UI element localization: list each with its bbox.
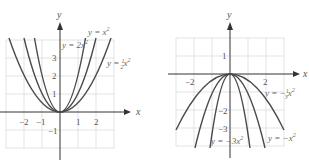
right-tick-y-neg3: −3 — [218, 124, 228, 134]
left-y-label: y — [56, 9, 62, 20]
left-tick-y-2: 2 — [52, 71, 57, 81]
left-tick-x-1: 1 — [76, 117, 81, 127]
left-tick-y-3: 3 — [52, 53, 57, 63]
right-tick-x-2: 2 — [263, 77, 268, 87]
right-tick-y-neg2: −2 — [218, 106, 228, 116]
right-x-arrow-icon — [293, 71, 300, 77]
label-y-neg-3x2: y = −3x2 — [210, 135, 243, 146]
label-y-neg-x2: y = −x2 — [267, 132, 296, 143]
left-y-arrow-icon — [57, 22, 63, 30]
left-tick-y-1: 1 — [52, 89, 57, 99]
right-y-arrow-icon — [227, 22, 233, 30]
left-tick-y-neg1: −1 — [48, 126, 58, 136]
left-graph: x y −2 −1 1 2 3 2 1 −1 y = 2x2 y = x2 y … — [0, 9, 141, 160]
left-x-arrow-icon — [124, 109, 131, 115]
label-y-half-x2: y = 12x2 — [106, 57, 131, 70]
label-y-2x2: y = 2x2 — [61, 39, 88, 50]
right-graph: x y −2 2 1 −2 −3 y = −13x2 y = −3x2 y = … — [168, 9, 308, 158]
left-x-label: x — [135, 106, 141, 117]
right-x-label: x — [302, 68, 308, 79]
right-tick-x-neg2: −2 — [185, 77, 195, 87]
right-tick-y-1: 1 — [222, 51, 227, 61]
left-tick-x-2: 2 — [94, 117, 99, 127]
label-y-x2: y = x2 — [87, 26, 110, 37]
figure: x y −2 −1 1 2 3 2 1 −1 y = 2x2 y = x2 y … — [0, 0, 309, 162]
left-tick-x-neg1: −1 — [36, 117, 46, 127]
label-y-neg-third-x2: y = −13x2 — [264, 87, 295, 100]
right-y-label: y — [226, 9, 232, 20]
left-tick-x-neg2: −2 — [19, 117, 29, 127]
